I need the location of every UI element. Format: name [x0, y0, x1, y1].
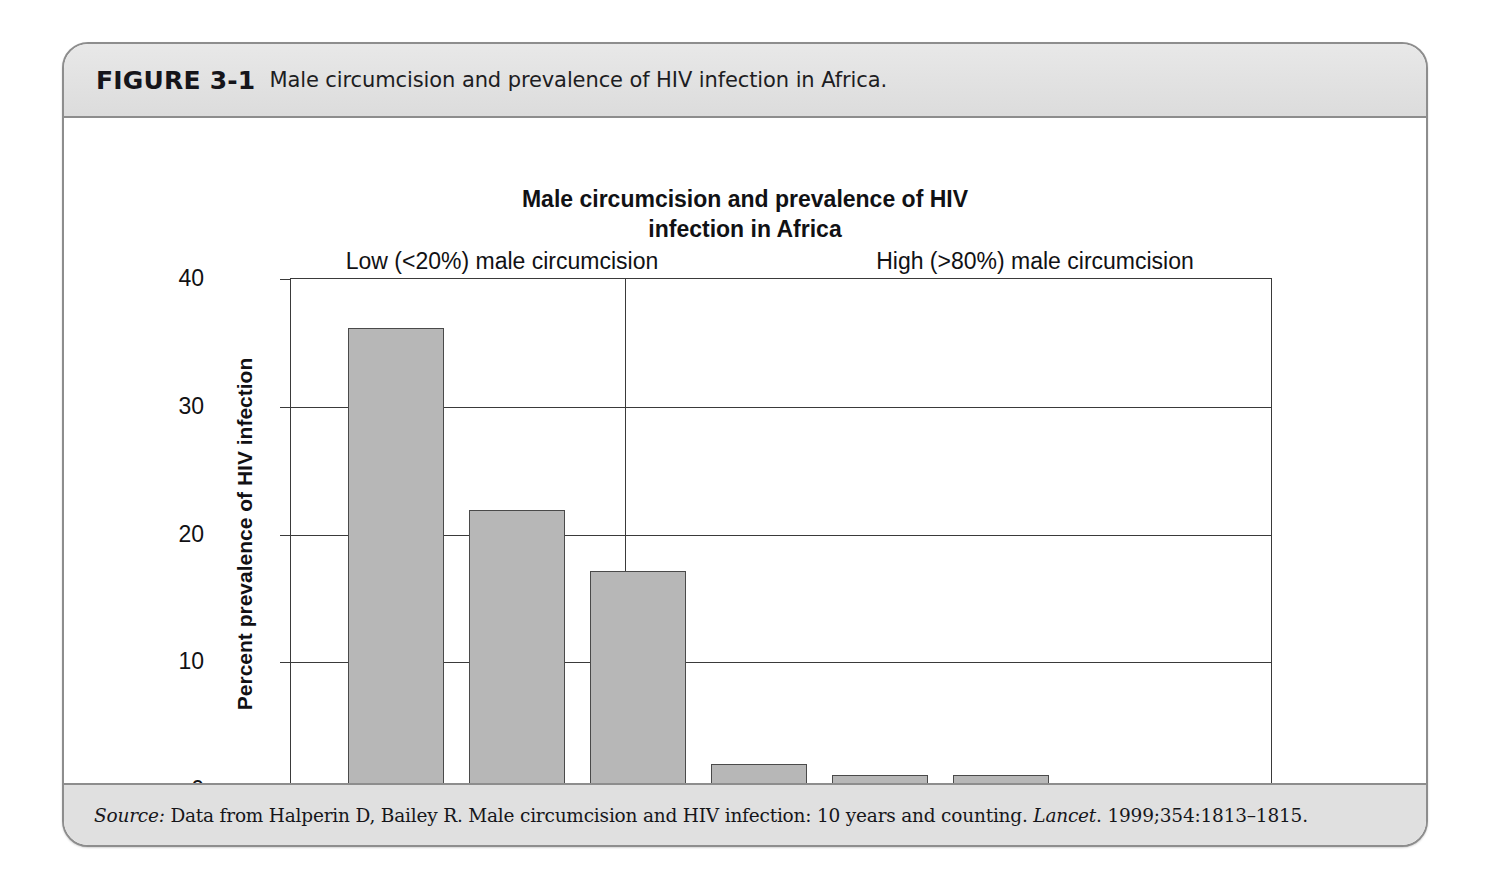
chart-area: Male circumcision and prevalence of HIV …: [64, 118, 1426, 785]
group-label-low-circumcision: Low (<20%) male circumcision: [222, 248, 782, 275]
source-citation: Source: Data from Halperin D, Bailey R. …: [94, 805, 1308, 826]
figure-box: FIGURE 3-1 Male circumcision and prevale…: [62, 42, 1428, 847]
plot-frame: Percent prevalence of HIV infection: [290, 278, 1272, 789]
figure-source-band: Source: Data from Halperin D, Bailey R. …: [64, 783, 1426, 845]
source-citation-detail: . 1999;354:1813–1815.: [1096, 805, 1308, 826]
source-body: Data from Halperin D, Bailey R. Male cir…: [165, 805, 1034, 826]
y-axis-title: Percent prevalence of HIV infection: [233, 357, 257, 709]
group-label-high-circumcision: High (>80%) male circumcision: [790, 248, 1280, 275]
figure-caption: Male circumcision and prevalence of HIV …: [269, 68, 887, 92]
bar-lesotho: [469, 510, 565, 789]
chart-title-line-2: infection in Africa: [64, 214, 1426, 244]
y-tick-10: [280, 662, 291, 663]
chart-title: Male circumcision and prevalence of HIV …: [64, 184, 1426, 244]
y-tick-label-10: 10: [134, 648, 204, 675]
y-tick-30: [280, 407, 291, 408]
y-tick-label-30: 30: [134, 392, 204, 419]
bar-botswana: [348, 328, 444, 788]
y-tick-20: [280, 535, 291, 536]
y-tick-label-20: 20: [134, 520, 204, 547]
bar-zambia: [590, 571, 686, 788]
source-journal: Lancet: [1033, 805, 1096, 826]
source-prefix: Source:: [94, 805, 165, 826]
figure-header: FIGURE 3-1 Male circumcision and prevale…: [64, 44, 1426, 118]
y-tick-label-40: 40: [134, 265, 204, 292]
y-tick-40: [280, 279, 291, 280]
figure-number: FIGURE 3-1: [96, 66, 255, 95]
chart-title-line-1: Male circumcision and prevalence of HIV: [64, 184, 1426, 214]
